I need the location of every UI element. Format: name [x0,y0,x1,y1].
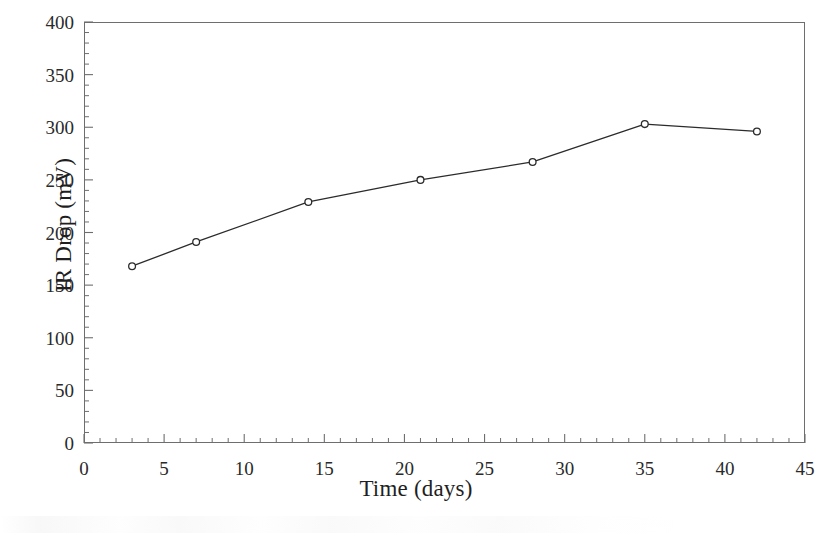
x-axis-title: Time (days) [0,476,832,502]
scan-artifact [0,516,832,533]
figure-container: 050100150200250300350400 051015202530354… [0,0,832,533]
y-axis-title: IR Drop (mV) [51,75,77,375]
plot-frame [84,22,805,443]
y-tick-label: 400 [10,13,74,32]
y-tick-label: 50 [10,381,74,400]
y-tick-label: 0 [10,434,74,453]
